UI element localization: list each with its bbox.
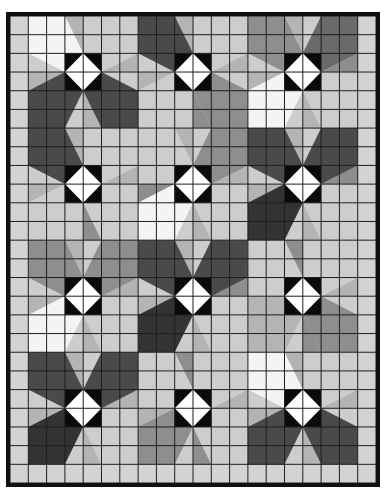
grid-lines [10,16,376,483]
quilt-grid [10,16,376,483]
quilt-frame [6,12,380,487]
